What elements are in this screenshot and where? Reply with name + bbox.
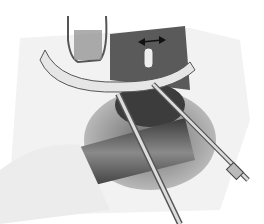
illustration-canvas xyxy=(0,0,264,224)
surgical-illustration xyxy=(0,0,264,224)
probe-tip xyxy=(144,48,153,68)
